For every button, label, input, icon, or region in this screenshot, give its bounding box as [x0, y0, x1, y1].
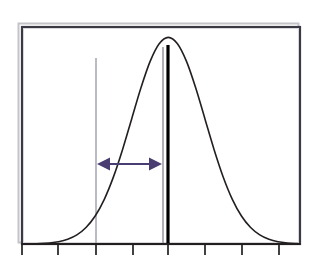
distribution-chart [0, 0, 324, 267]
plot-frame [22, 27, 300, 244]
figure-container [0, 0, 324, 267]
